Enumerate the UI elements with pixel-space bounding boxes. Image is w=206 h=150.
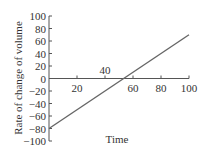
series-line (49, 35, 189, 129)
x-axis-title: Time (106, 133, 129, 145)
y-tick-label: −20 (29, 85, 47, 97)
y-axis-ticks: 100806040200−20−40−60−80−100 (23, 10, 52, 147)
y-tick-label: 60 (35, 35, 47, 47)
x-tick-label: 80 (156, 82, 168, 94)
y-tick-label: −80 (29, 123, 47, 135)
y-axis-title: Rate of change of volume (12, 21, 24, 135)
x-tick-label: 60 (128, 82, 140, 94)
y-tick-label: 0 (41, 73, 47, 85)
x-tick-label: 100 (181, 82, 198, 94)
data-series (49, 35, 189, 129)
y-tick-label: 80 (35, 23, 47, 35)
y-tick-label: −60 (29, 110, 47, 122)
y-tick-label: −40 (29, 98, 47, 110)
chart-canvas: 100806040200−20−40−60−80−100 20406080100… (0, 0, 206, 150)
line-chart: 100806040200−20−40−60−80−100 20406080100… (0, 0, 206, 150)
y-tick-label: 40 (35, 48, 47, 60)
y-tick-label: 100 (30, 10, 47, 22)
y-tick-label: 20 (35, 60, 47, 72)
x-tick-label: 20 (72, 82, 84, 94)
x-tick-label: 40 (100, 64, 112, 76)
y-tick-label: −100 (23, 135, 46, 147)
